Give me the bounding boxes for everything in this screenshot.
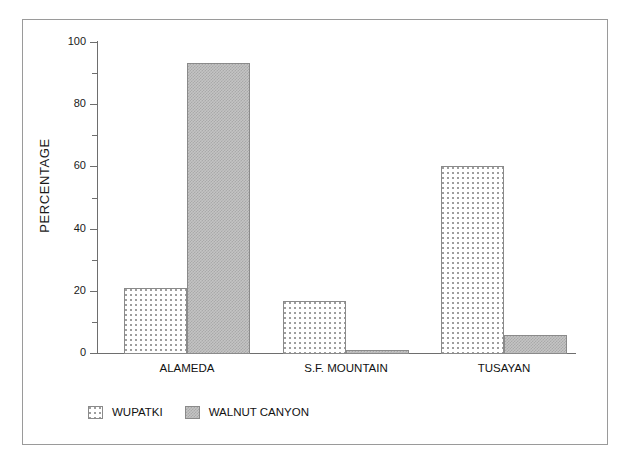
y-minor-tick-30: [92, 260, 98, 261]
y-tick-label-40: 40: [54, 223, 86, 234]
chart-legend: WUPATKI WALNUT CANYON: [88, 404, 331, 420]
bar-sf-mountain-wupatki[interactable]: [283, 301, 346, 354]
y-minor-tick-90: [92, 73, 98, 74]
y-tick-40: [90, 229, 98, 230]
bar-chart-plot: PERCENTAGE 100 80 60 40 20 0: [0, 0, 629, 466]
y-tick-label-60-wrap: 60: [50, 160, 86, 171]
y-tick-label-40-wrap: 40: [50, 223, 86, 234]
x-category-label-tusayan: TUSAYAN: [444, 362, 564, 374]
y-tick-20: [90, 291, 98, 292]
legend-item-wupatki[interactable]: WUPATKI: [88, 406, 163, 419]
bar-tusayan-walnut-canyon[interactable]: [504, 335, 567, 354]
bar-alameda-walnut-canyon[interactable]: [187, 63, 250, 354]
y-tick-0: [90, 353, 98, 354]
y-tick-100: [90, 42, 98, 43]
x-category-label-alameda: ALAMEDA: [127, 362, 247, 374]
y-tick-label-20: 20: [54, 285, 86, 296]
y-tick-label-80: 80: [54, 98, 86, 109]
legend-swatch-walnut-canyon-icon: [185, 406, 200, 419]
y-tick-label-100-wrap: 100: [50, 36, 86, 47]
bar-sf-mountain-walnut-canyon[interactable]: [346, 350, 409, 354]
legend-item-walnut-canyon[interactable]: WALNUT CANYON: [185, 406, 309, 419]
y-tick-label-60: 60: [54, 160, 86, 171]
y-tick-80: [90, 104, 98, 105]
figure-canvas: PERCENTAGE 100 80 60 40 20 0: [0, 0, 629, 466]
x-category-label-sf-mountain: S.F. MOUNTAIN: [286, 362, 406, 374]
bar-tusayan-wupatki[interactable]: [441, 166, 504, 354]
y-minor-tick-10: [92, 322, 98, 323]
y-tick-label-80-wrap: 80: [50, 98, 86, 109]
y-tick-60: [90, 166, 98, 167]
y-tick-label-0-wrap: 0: [50, 347, 86, 358]
bar-alameda-wupatki[interactable]: [124, 288, 187, 354]
y-minor-tick-70: [92, 135, 98, 136]
y-tick-label-0: 0: [54, 347, 86, 358]
legend-label-wupatki: WUPATKI: [112, 406, 163, 418]
y-tick-label-100: 100: [54, 36, 86, 47]
y-minor-tick-50: [92, 198, 98, 199]
legend-swatch-wupatki-icon: [88, 406, 103, 419]
y-tick-label-20-wrap: 20: [50, 285, 86, 296]
legend-label-walnut-canyon: WALNUT CANYON: [209, 406, 309, 418]
